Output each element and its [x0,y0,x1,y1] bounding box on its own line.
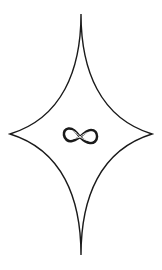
astroid-star-graphic [0,0,162,270]
infinity-icon [64,128,97,143]
